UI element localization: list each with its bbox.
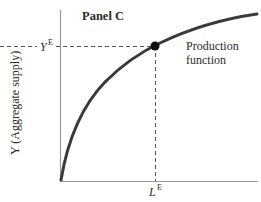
equilibrium-point: [151, 42, 160, 51]
y-axis-title: Y (Aggregate supply): [8, 51, 22, 155]
curve-label-line1: Production: [186, 39, 239, 53]
panel-title: Panel C: [82, 9, 124, 23]
y-equilibrium-sup: E: [48, 38, 53, 47]
x-equilibrium-label: L: [148, 185, 156, 199]
curve-label-line2: function: [186, 53, 226, 67]
x-equilibrium-sup: E: [157, 183, 162, 192]
production-function-chart: Panel C Production function Y E L E Y (A…: [0, 0, 261, 202]
y-equilibrium-label: Y: [40, 40, 48, 54]
